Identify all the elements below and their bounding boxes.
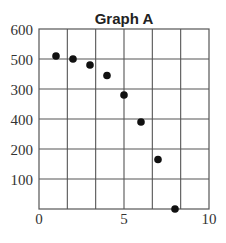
y-tick-label: 300 xyxy=(11,82,34,98)
data-points xyxy=(52,52,179,213)
y-tick-label: 600 xyxy=(11,22,34,38)
data-point xyxy=(103,72,111,80)
y-tick-label: 100 xyxy=(11,172,34,188)
x-tick-label: 5 xyxy=(120,211,128,227)
data-point xyxy=(154,156,162,164)
x-tick-label: 10 xyxy=(202,211,217,227)
x-axis-labels: 0 5 10 xyxy=(35,211,216,227)
data-point xyxy=(86,61,94,69)
chart-title: Graph A xyxy=(95,10,154,27)
y-axis-labels: 600 500 300 400 200 100 xyxy=(11,22,34,188)
x-tick-label: 0 xyxy=(35,211,43,227)
scatter-chart: Graph A 600 500 300 400 200 100 0 5 10 xyxy=(0,0,226,243)
data-point xyxy=(52,52,60,60)
grid-lines xyxy=(39,29,209,209)
data-point xyxy=(120,91,128,99)
y-tick-label: 400 xyxy=(11,112,34,128)
data-point xyxy=(69,55,77,63)
data-point xyxy=(171,205,179,213)
y-tick-label: 500 xyxy=(11,52,34,68)
data-point xyxy=(137,118,145,126)
y-tick-label: 200 xyxy=(11,142,34,158)
